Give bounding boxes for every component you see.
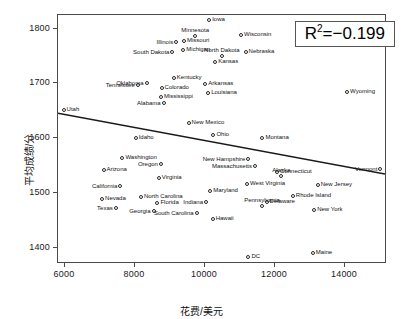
- data-point-label: Idaho: [139, 134, 154, 140]
- data-point[interactable]: [159, 95, 163, 99]
- data-point-label: Oregon: [138, 161, 158, 167]
- data-point[interactable]: [172, 76, 176, 80]
- data-point[interactable]: [155, 201, 159, 205]
- r-squared-annotation: R2=−0.199: [295, 21, 395, 47]
- data-point-label: New Mexico: [192, 119, 225, 125]
- x-tick-label: 14000: [331, 269, 357, 279]
- data-point[interactable]: [246, 157, 250, 161]
- data-point-label: Kentucky: [177, 74, 202, 80]
- data-point-label: New Hampshire: [203, 156, 246, 162]
- x-tick-label: 8000: [124, 269, 145, 279]
- data-point-label: Nevada: [105, 195, 126, 201]
- data-point-label: Colorado: [165, 84, 189, 90]
- x-tick-mark: [64, 263, 65, 267]
- x-axis-title: 花费/美元: [0, 303, 403, 318]
- r2-symbol: R: [305, 24, 317, 43]
- scatter-chart-figure: 平均成绩/分 花费/美元 14001500160017001800 600080…: [0, 0, 403, 319]
- x-tick-mark: [134, 263, 135, 267]
- data-point[interactable]: [207, 18, 211, 22]
- y-tick-label: 1600: [29, 132, 50, 142]
- data-point[interactable]: [204, 200, 208, 204]
- data-point-label: Alaska: [272, 167, 290, 173]
- data-point[interactable]: [187, 121, 191, 125]
- data-point[interactable]: [195, 211, 199, 215]
- data-point[interactable]: [211, 217, 215, 221]
- x-tick-mark: [204, 263, 205, 267]
- data-point[interactable]: [62, 108, 66, 112]
- data-point[interactable]: [170, 50, 174, 54]
- data-point[interactable]: [162, 101, 166, 105]
- data-point[interactable]: [120, 156, 124, 160]
- data-point-label: Kansas: [218, 58, 238, 64]
- data-point-label: South Carolina: [154, 210, 194, 216]
- data-point[interactable]: [260, 136, 264, 140]
- data-point-label: Nebraska: [249, 48, 275, 54]
- data-point[interactable]: [213, 60, 217, 64]
- data-point-label: New Jersey: [321, 181, 352, 187]
- data-point[interactable]: [145, 81, 149, 85]
- data-point-label: Illinois: [157, 39, 174, 45]
- data-point[interactable]: [118, 184, 122, 188]
- data-point-label: Virginia: [162, 174, 182, 180]
- data-point[interactable]: [136, 83, 140, 87]
- data-point-label: Arizona: [107, 166, 127, 172]
- data-point-label: North Dakota: [204, 47, 239, 53]
- data-point[interactable]: [239, 33, 243, 37]
- y-tick-label: 1700: [29, 77, 50, 87]
- data-point[interactable]: [312, 208, 316, 212]
- data-point-label: Mississippi: [164, 93, 193, 99]
- data-point[interactable]: [134, 136, 138, 140]
- data-point-label: Utah: [67, 106, 80, 112]
- data-point[interactable]: [311, 251, 315, 255]
- r2-value: =−0.199: [323, 24, 385, 43]
- data-point[interactable]: [159, 162, 163, 166]
- data-point[interactable]: [182, 39, 186, 43]
- data-point[interactable]: [208, 189, 212, 193]
- data-point[interactable]: [174, 40, 178, 44]
- data-point[interactable]: [102, 168, 106, 172]
- data-point[interactable]: [211, 133, 215, 137]
- data-point[interactable]: [246, 255, 250, 259]
- data-point[interactable]: [114, 206, 118, 210]
- data-point[interactable]: [160, 86, 164, 90]
- data-point[interactable]: [139, 195, 143, 199]
- y-tick-label: 1500: [29, 187, 50, 197]
- data-point[interactable]: [244, 50, 248, 54]
- data-point-label: New York: [317, 206, 342, 212]
- data-point-label: California: [92, 183, 117, 189]
- data-point-label: Georgia: [129, 208, 150, 214]
- data-point[interactable]: [100, 197, 104, 201]
- data-point[interactable]: [245, 182, 249, 186]
- data-point-label: South Dakota: [133, 49, 169, 55]
- data-point-label: Florida: [160, 199, 178, 205]
- data-point-label: West Virginia: [250, 180, 285, 186]
- data-point[interactable]: [203, 82, 207, 86]
- data-point-label: Montana: [265, 134, 288, 140]
- data-point-label: DC: [251, 253, 260, 259]
- data-point[interactable]: [181, 48, 185, 52]
- x-tick-label: 12000: [261, 269, 287, 279]
- x-tick-label: 6000: [54, 269, 75, 279]
- data-point-label: Washington: [125, 154, 156, 160]
- data-point-label: Wisconsin: [244, 31, 271, 37]
- data-point[interactable]: [378, 167, 382, 171]
- data-point-label: Pennsylvania: [244, 197, 280, 203]
- y-tick-label: 1800: [29, 23, 50, 33]
- data-point-label: Maine: [316, 249, 332, 255]
- data-point-label: Arkansas: [208, 80, 233, 86]
- data-point-label: Iowa: [212, 16, 225, 22]
- data-point[interactable]: [345, 90, 349, 94]
- data-point[interactable]: [206, 91, 210, 95]
- x-tick-label: 10000: [191, 269, 217, 279]
- data-point-label: Louisiana: [211, 89, 237, 95]
- data-point-label: Massachusetts: [212, 163, 252, 169]
- data-point[interactable]: [316, 183, 320, 187]
- data-point-label: Vermont: [355, 166, 377, 172]
- data-point[interactable]: [157, 176, 161, 180]
- data-point-label: Minnesota: [181, 27, 209, 33]
- data-point[interactable]: [279, 174, 283, 178]
- data-point[interactable]: [253, 164, 257, 168]
- plot-area: IowaWisconsinMinnesotaMissouriIllinoisMi…: [57, 14, 386, 263]
- data-point[interactable]: [260, 204, 264, 208]
- data-point-label: Ohio: [216, 131, 229, 137]
